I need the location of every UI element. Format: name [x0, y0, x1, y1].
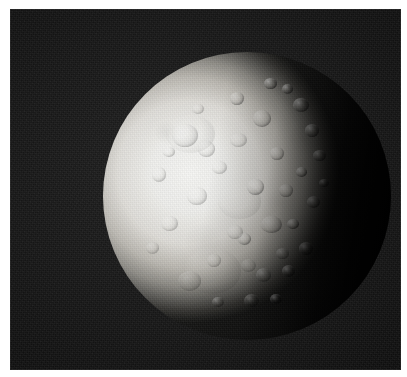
photographic-plate — [10, 9, 401, 370]
moon-disk — [103, 52, 391, 340]
image-canvas — [0, 0, 407, 377]
limb-darkening — [103, 52, 391, 340]
moon-surface — [103, 52, 391, 340]
